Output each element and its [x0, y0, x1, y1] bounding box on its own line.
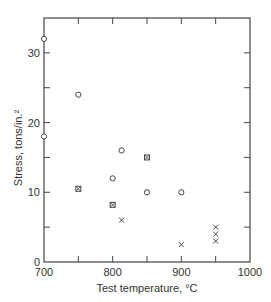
x-axis-label: Test temperature, °C — [97, 282, 198, 294]
circle-marker — [41, 36, 46, 41]
x-tick-label: 800 — [103, 266, 121, 278]
circle-marker — [76, 92, 81, 97]
circle-marker — [110, 176, 115, 181]
circle-marker — [179, 190, 184, 195]
circle-marker — [144, 190, 149, 195]
y-axis-label: Stress, tons/in.² — [12, 109, 24, 186]
y-tick-label: 10 — [28, 186, 40, 198]
circle-marker — [119, 148, 124, 153]
cross-marker — [213, 239, 218, 244]
cross-marker — [213, 225, 218, 230]
plot-frame — [44, 18, 250, 262]
x-tick-label: 1000 — [238, 266, 262, 278]
cross-marker — [119, 218, 124, 223]
y-tick-label: 30 — [28, 47, 40, 59]
y-tick-label: 20 — [28, 117, 40, 129]
scatter-chart: 70080090010000102030Test temperature, °C… — [0, 0, 271, 302]
y-tick-label: 0 — [34, 256, 40, 268]
circle-marker — [41, 134, 46, 139]
cross-marker — [213, 232, 218, 237]
cross-marker — [179, 242, 184, 247]
x-tick-label: 900 — [172, 266, 190, 278]
